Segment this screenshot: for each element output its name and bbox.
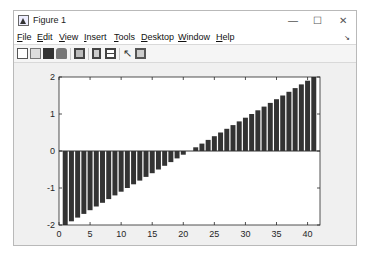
- bar: [88, 151, 93, 210]
- bar: [311, 77, 316, 151]
- bar: [293, 88, 298, 151]
- x-tick-label: 20: [178, 229, 188, 239]
- bar: [81, 151, 86, 214]
- y-tick-label: 2: [50, 72, 55, 82]
- bar: [280, 96, 285, 152]
- bar: [131, 151, 136, 184]
- y-tick-label: -2: [47, 220, 55, 230]
- bar: [75, 151, 80, 218]
- bar: [106, 151, 111, 199]
- x-tick-label: 0: [56, 229, 61, 239]
- bar: [299, 84, 304, 151]
- x-tick-label: 15: [147, 229, 157, 239]
- bar: [112, 151, 117, 195]
- bar: [100, 151, 105, 203]
- bar: [262, 107, 267, 151]
- bar: [150, 151, 155, 173]
- y-tick-label: 1: [50, 109, 55, 119]
- bar-chart: 0510152025303540-2-1012: [0, 0, 368, 258]
- bar: [162, 151, 167, 166]
- x-tick-label: 5: [88, 229, 93, 239]
- x-tick-label: 30: [240, 229, 250, 239]
- y-tick-label: -1: [47, 183, 55, 193]
- bar: [237, 121, 242, 151]
- bar: [94, 151, 99, 207]
- bar: [193, 147, 198, 151]
- x-tick-label: 35: [271, 229, 281, 239]
- bar: [218, 133, 223, 152]
- x-tick-label: 25: [209, 229, 219, 239]
- bar: [119, 151, 124, 192]
- bar: [168, 151, 173, 162]
- bar: [286, 92, 291, 151]
- bar: [224, 129, 229, 151]
- bar: [305, 81, 310, 151]
- bar: [199, 144, 204, 151]
- bar: [144, 151, 149, 177]
- x-tick-label: 40: [303, 229, 313, 239]
- bar: [268, 103, 273, 151]
- bar: [249, 114, 254, 151]
- bar: [255, 110, 260, 151]
- bar: [212, 136, 217, 151]
- bar: [274, 99, 279, 151]
- y-tick-label: 0: [50, 146, 55, 156]
- bar: [63, 151, 68, 225]
- bar: [243, 118, 248, 151]
- bar: [206, 140, 211, 151]
- bar: [125, 151, 130, 188]
- x-tick-label: 10: [116, 229, 126, 239]
- bar: [231, 125, 236, 151]
- bar: [137, 151, 142, 181]
- bar: [69, 151, 74, 221]
- bar: [175, 151, 180, 158]
- bar: [181, 151, 186, 155]
- bar: [156, 151, 161, 170]
